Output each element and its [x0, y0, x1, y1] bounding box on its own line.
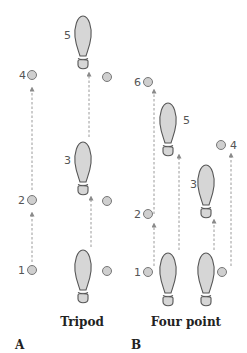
footprint-b-left-start	[160, 253, 176, 306]
crutch-point-b-4	[217, 141, 226, 150]
crutch-point-b-2	[144, 210, 153, 219]
label-a-2: 2	[18, 194, 25, 207]
label-a-5: 5	[64, 29, 71, 42]
label-a-1: 1	[18, 264, 25, 277]
footprint-a-start	[75, 250, 91, 303]
caption-four-point: Four point	[151, 315, 222, 329]
crutch-point-b-6	[144, 78, 153, 87]
panel-a-tripod: 4 2 1 5 3 Tripod A	[14, 16, 112, 352]
footprint-b-5	[160, 103, 176, 156]
footprint-a-3	[75, 142, 91, 195]
panel-letter-b: B	[131, 338, 141, 352]
crutch-point-a-1	[28, 266, 37, 275]
label-a-4: 4	[19, 69, 26, 82]
label-b-5: 5	[183, 114, 190, 127]
crutch-point-a-2	[28, 196, 37, 205]
label-b-6: 6	[134, 76, 141, 89]
panel-b-four-point: 6 4 2 1 5 3 Four point B	[131, 76, 237, 352]
gait-diagram: 4 2 1 5 3 Tripod A 6 4 2 1	[0, 0, 247, 353]
footprint-a-5	[75, 16, 91, 69]
label-b-1: 1	[134, 266, 141, 279]
label-b-4: 4	[230, 139, 237, 152]
label-a-3: 3	[64, 154, 71, 167]
panel-letter-a: A	[14, 338, 25, 352]
crutch-point-a-right-top	[103, 73, 112, 82]
label-b-3: 3	[190, 178, 197, 191]
footprint-b-right-start	[198, 253, 214, 306]
footprint-b-3	[198, 165, 214, 218]
crutch-point-a-right-bottom	[103, 267, 112, 276]
crutch-point-a-right-mid	[103, 197, 112, 206]
label-b-2: 2	[134, 208, 141, 221]
crutch-point-b-right-start	[218, 268, 227, 277]
caption-tripod: Tripod	[60, 315, 104, 329]
crutch-point-a-4	[28, 71, 37, 80]
crutch-point-b-1	[144, 268, 153, 277]
